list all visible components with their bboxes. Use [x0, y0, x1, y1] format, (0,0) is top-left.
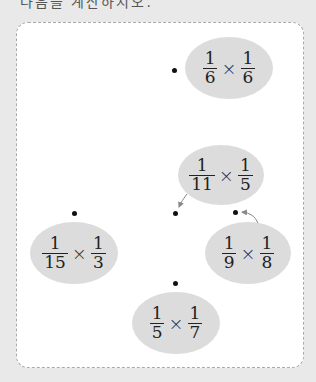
- arrow-b-to-dot: [179, 194, 187, 207]
- connector-arrows: [0, 0, 316, 382]
- arrow-d-to-dot: [242, 212, 258, 223]
